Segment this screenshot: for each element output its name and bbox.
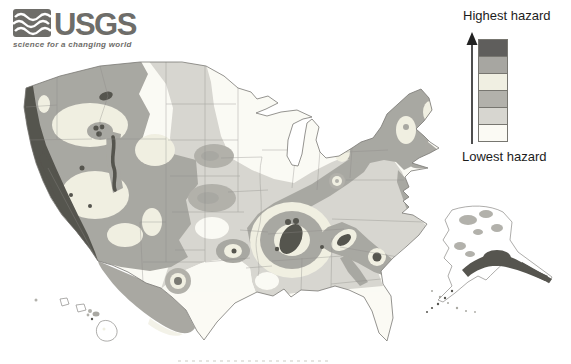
legend-swatch-stack xyxy=(478,40,508,142)
hazard-legend: Highest hazard Lowest hazard xyxy=(440,0,571,175)
usgs-logo: USGS science for a changing world xyxy=(13,9,136,49)
hazard-level-3 xyxy=(478,90,508,108)
hazard-level-5 xyxy=(478,56,508,74)
logo-tagline: science for a changing world xyxy=(13,40,136,49)
hazard-level-2 xyxy=(478,107,508,125)
atlantic-island-specks xyxy=(431,290,476,313)
logo-text: USGS xyxy=(54,12,136,37)
hawaii-inset xyxy=(35,298,118,341)
west-texas-zone xyxy=(165,268,191,294)
legend-highest-label: Highest hazard xyxy=(463,8,550,23)
usgs-wave-icon xyxy=(13,9,51,37)
hazard-level-6-highest xyxy=(478,39,508,57)
charleston-zone xyxy=(368,248,386,266)
legend-lowest-label: Lowest hazard xyxy=(462,149,547,164)
alaska-inset xyxy=(426,206,552,313)
conterminous-us-map xyxy=(0,0,460,364)
hazard-level-1-lowest xyxy=(478,124,508,142)
hazard-level-4 xyxy=(478,73,508,91)
ohio-ring-zone xyxy=(329,173,345,189)
aleutian-islands xyxy=(426,290,453,313)
page: USGS science for a changing world Highes… xyxy=(0,0,571,364)
